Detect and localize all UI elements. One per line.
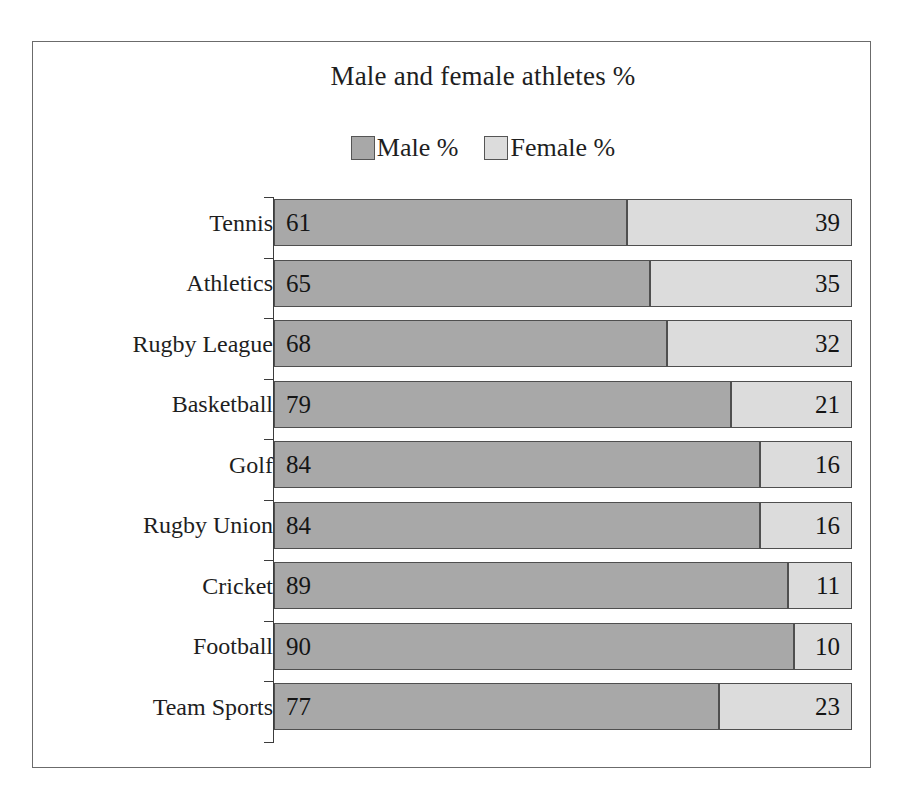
category-label: Basketball — [43, 392, 273, 416]
bar-row[interactable]: 9010 — [274, 623, 852, 670]
category-label: Rugby Union — [43, 513, 273, 537]
category-axis-tick — [264, 742, 274, 743]
category-label: Team Sports — [43, 695, 273, 719]
category-label: Athletics — [43, 271, 273, 295]
bar-row[interactable]: 7723 — [274, 683, 852, 730]
plot-region: TennisAthleticsRugby LeagueBasketballGol… — [33, 42, 872, 769]
bar-value-male: 84 — [275, 452, 322, 477]
bar-row[interactable]: 6139 — [274, 199, 852, 246]
bar-row[interactable]: 8416 — [274, 441, 852, 488]
category-axis-tick — [264, 439, 274, 440]
bar-value-female: 32 — [804, 331, 851, 356]
bar-segment-female[interactable]: 21 — [731, 381, 852, 428]
bar-value-female: 35 — [804, 271, 851, 296]
category-axis-tick — [264, 681, 274, 682]
category-axis-tick — [264, 318, 274, 319]
category-label: Football — [43, 634, 273, 658]
bar-value-male: 90 — [275, 634, 322, 659]
category-axis-tick — [264, 197, 274, 198]
bar-row[interactable]: 8416 — [274, 502, 852, 549]
category-label: Rugby League — [43, 332, 273, 356]
bar-segment-male[interactable]: 68 — [274, 320, 667, 367]
bar-segment-female[interactable]: 16 — [760, 502, 852, 549]
bar-segment-male[interactable]: 77 — [274, 683, 719, 730]
category-axis-tick — [264, 379, 274, 380]
bar-value-female: 39 — [804, 210, 851, 235]
category-label: Cricket — [43, 574, 273, 598]
bar-segment-female[interactable]: 23 — [719, 683, 852, 730]
bar-value-male: 84 — [275, 513, 322, 538]
category-axis: TennisAthleticsRugby LeagueBasketballGol… — [33, 42, 273, 769]
bar-value-male: 79 — [275, 392, 322, 417]
bar-value-male: 68 — [275, 331, 322, 356]
bar-segment-female[interactable]: 16 — [760, 441, 852, 488]
bar-segment-male[interactable]: 84 — [274, 441, 760, 488]
bar-row[interactable]: 6535 — [274, 260, 852, 307]
bar-value-female: 23 — [804, 694, 851, 719]
bar-row[interactable]: 6832 — [274, 320, 852, 367]
bar-segment-female[interactable]: 11 — [788, 562, 852, 609]
category-label: Golf — [43, 453, 273, 477]
bar-segment-male[interactable]: 65 — [274, 260, 650, 307]
bar-segment-female[interactable]: 32 — [667, 320, 852, 367]
bar-segment-male[interactable]: 79 — [274, 381, 731, 428]
bar-segment-male[interactable]: 89 — [274, 562, 788, 609]
bar-value-male: 61 — [275, 210, 322, 235]
bar-segment-male[interactable]: 84 — [274, 502, 760, 549]
bar-row[interactable]: 8911 — [274, 562, 852, 609]
category-axis-tick — [264, 621, 274, 622]
bar-value-female: 16 — [804, 513, 851, 538]
bar-segment-male[interactable]: 90 — [274, 623, 794, 670]
chart-frame: Male and female athletes % Male % Female… — [32, 41, 871, 768]
bar-value-female: 16 — [804, 452, 851, 477]
category-axis-tick — [264, 560, 274, 561]
bar-segment-male[interactable]: 61 — [274, 199, 627, 246]
bar-segment-female[interactable]: 39 — [627, 199, 852, 246]
bar-value-male: 77 — [275, 694, 322, 719]
bar-value-male: 89 — [275, 573, 322, 598]
category-axis-tick — [264, 500, 274, 501]
bar-value-female: 21 — [804, 392, 851, 417]
bar-value-male: 65 — [275, 271, 322, 296]
category-label: Tennis — [43, 211, 273, 235]
bar-value-female: 11 — [805, 573, 851, 598]
bar-segment-female[interactable]: 10 — [794, 623, 852, 670]
bar-row[interactable]: 7921 — [274, 381, 852, 428]
category-axis-tick — [264, 258, 274, 259]
bar-value-female: 10 — [804, 634, 851, 659]
bar-segment-female[interactable]: 35 — [650, 260, 852, 307]
